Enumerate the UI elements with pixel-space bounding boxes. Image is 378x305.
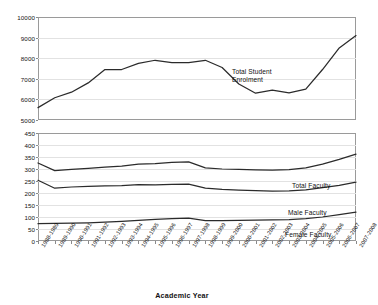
y-axis-tick-mark — [36, 120, 38, 121]
enrolment-panel: 5000600070008000900010000 — [0, 17, 364, 120]
annotation-male-faculty: Male Faculty — [288, 209, 327, 217]
annotation-line-1: Total Student — [232, 68, 272, 75]
x-axis-tick-mark — [55, 241, 56, 244]
x-axis-tick-mark — [122, 241, 123, 244]
x-axis-tick-mark — [88, 241, 89, 244]
x-axis-tick-mark — [272, 241, 273, 244]
series-line-total-faculty — [38, 154, 356, 171]
x-axis-tick-mark — [339, 241, 340, 244]
x-axis-tick-mark — [138, 241, 139, 244]
x-axis-tick-mark — [105, 241, 106, 244]
series-line-total-student-enrolment — [38, 36, 356, 108]
x-axis-title: Academic Year — [0, 291, 364, 300]
x-axis-tick-mark — [323, 241, 324, 244]
x-axis-tick-mark — [155, 241, 156, 244]
x-axis-tick-mark — [38, 241, 39, 244]
x-axis-tick-mark — [205, 241, 206, 244]
annotation-total-faculty: Total Faculty — [292, 182, 330, 190]
enrolment-series-layer — [0, 17, 364, 120]
annotation-total-student-enrolment: Total Student Enrolment — [232, 68, 272, 84]
x-axis-tick-mark — [239, 241, 240, 244]
x-axis-tick-mark — [172, 241, 173, 244]
x-axis-tick-mark — [356, 241, 357, 244]
annotation-line-2: Enrolment — [232, 76, 263, 83]
x-axis-tick-mark — [189, 241, 190, 244]
x-axis-tick-mark — [306, 241, 307, 244]
x-axis-tick-mark — [256, 241, 257, 244]
x-axis-tick-mark — [289, 241, 290, 244]
x-axis-tick-mark — [222, 241, 223, 244]
annotation-female-faculty: Female Faculty — [285, 231, 331, 239]
